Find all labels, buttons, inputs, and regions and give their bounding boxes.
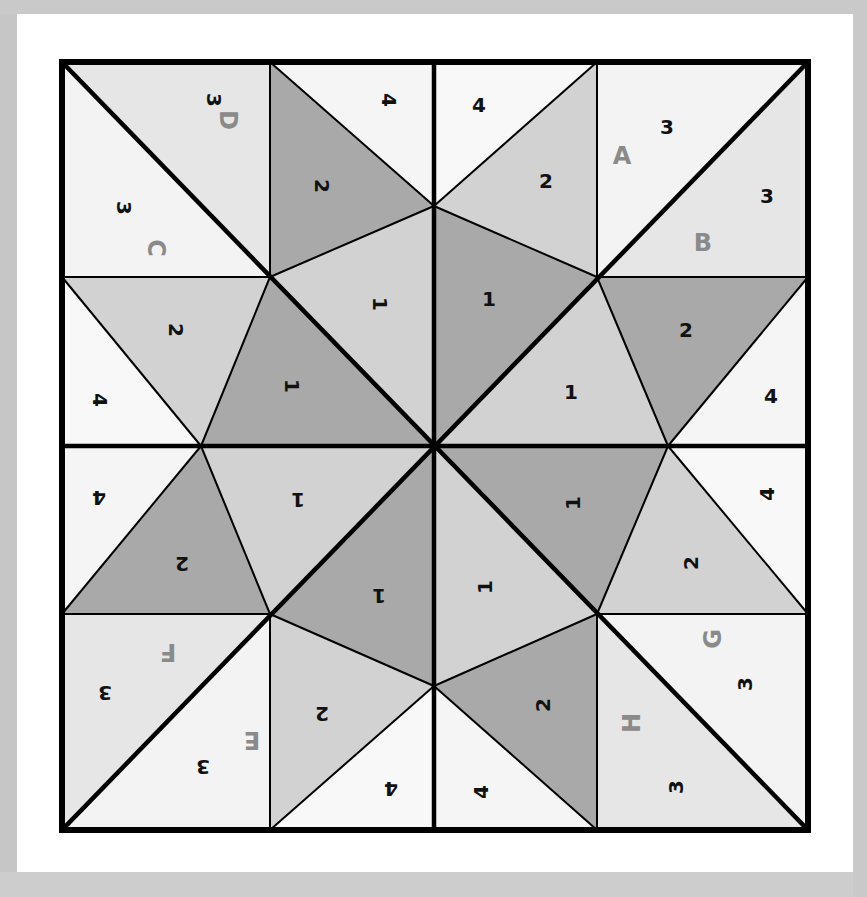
label-2-top-left: 2 xyxy=(310,179,334,193)
label-4-top-right: 4 xyxy=(472,93,486,117)
label-3-B: 3 xyxy=(760,184,774,208)
label-2-left-top: 2 xyxy=(164,323,188,337)
label-1-top-left: 1 xyxy=(368,297,392,311)
label-1-right-bottom: 1 xyxy=(561,496,585,510)
label-3-E: 3 xyxy=(196,755,210,779)
thick-seam-lines xyxy=(62,62,808,830)
label-1-left-top: 1 xyxy=(280,379,304,393)
label-3-G: 3 xyxy=(733,677,757,691)
label-4-top-left: 4 xyxy=(377,93,401,107)
label-letter-A: A xyxy=(613,142,632,170)
label-4-right-top: 4 xyxy=(764,384,778,408)
label-3-A: 3 xyxy=(660,115,674,139)
label-4-bottom-right: 4 xyxy=(469,785,493,799)
label-2-right-bottom: 2 xyxy=(679,556,703,570)
label-3-H: 3 xyxy=(664,780,688,794)
label-2-left-bottom: 2 xyxy=(175,552,189,576)
label-2-right-top: 2 xyxy=(679,318,693,342)
label-3-D: 3 xyxy=(202,93,226,107)
label-4-left-bottom: 4 xyxy=(92,486,106,510)
label-letter-B: B xyxy=(694,229,712,257)
label-1-right-top: 1 xyxy=(564,380,578,404)
label-1-bottom-right: 1 xyxy=(473,580,497,594)
label-letter-D: D xyxy=(214,110,242,130)
label-letter-E: E xyxy=(244,726,260,754)
label-letter-H: H xyxy=(618,713,646,733)
label-4-left-top: 4 xyxy=(88,393,112,407)
label-4-bottom-left: 4 xyxy=(384,777,398,801)
label-2-bottom-left: 2 xyxy=(315,702,329,726)
label-3-F: 3 xyxy=(98,681,112,705)
label-letter-G: G xyxy=(699,629,727,649)
label-1-left-bottom: 1 xyxy=(291,488,305,512)
label-1-bottom-left: 1 xyxy=(372,584,386,608)
label-letter-C: C xyxy=(142,239,170,257)
label-1-top-right: 1 xyxy=(482,287,496,311)
label-2-top-right: 2 xyxy=(539,169,553,193)
label-letter-F: F xyxy=(160,638,176,666)
quilt-block: 3 D 3 C 4 2 1 2 4 1 4 2 1 3 A 3 B 2 1 4 … xyxy=(0,0,867,897)
label-4-right-bottom: 4 xyxy=(755,487,779,501)
label-2-bottom-right: 2 xyxy=(531,698,555,712)
label-3-C: 3 xyxy=(112,201,136,215)
